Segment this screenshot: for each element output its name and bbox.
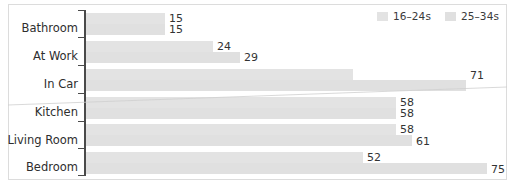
category-label-bedroom: Bedroom — [6, 161, 78, 173]
legend-swatch-icon — [377, 12, 388, 21]
axis-tick — [78, 10, 85, 11]
axis-tick — [78, 65, 85, 66]
bar-bathroom-25-34s[interactable] — [84, 24, 165, 35]
category-label-bathroom: Bathroom — [6, 22, 78, 34]
bar-at-work-16-24s[interactable] — [84, 41, 213, 52]
bar-value-living-room-16-24s: 58 — [400, 124, 414, 135]
axis-tick — [78, 175, 85, 176]
axis-tick — [78, 148, 85, 149]
bar-kitchen-16-24s[interactable] — [84, 97, 396, 108]
bar-living-room-16-24s[interactable] — [84, 124, 396, 135]
axis-tick — [78, 93, 85, 94]
category-label-at-work: At Work — [6, 50, 78, 62]
legend-item-25-34s[interactable]: 25–34s — [445, 11, 499, 22]
bar-value-living-room-25-34s: 61 — [416, 136, 430, 147]
bar-at-work-25-34s[interactable] — [84, 52, 240, 63]
axis-tick — [78, 121, 85, 122]
bar-in-car-16-24s[interactable] — [84, 69, 353, 80]
bar-kitchen-25-34s[interactable] — [84, 108, 396, 119]
chart-legend: 16–24s 25–34s — [377, 11, 499, 22]
legend-label: 16–24s — [393, 11, 431, 22]
legend-label: 25–34s — [461, 11, 499, 22]
category-label-in-car: In Car — [6, 78, 78, 90]
category-axis-labels: Bathroom At Work In Car Kitchen Living R… — [0, 10, 78, 176]
bar-value-bathroom-25-34s: 15 — [169, 24, 183, 35]
bar-in-car-25-34s[interactable] — [84, 80, 466, 91]
bar-chart: 16–24s 25–34s Bathroom At Work In Car Ki… — [0, 0, 515, 188]
bar-value-kitchen-25-34s: 58 — [400, 108, 414, 119]
axis-tick — [78, 37, 85, 38]
bar-value-at-work-25-34s: 29 — [244, 52, 258, 63]
legend-swatch-icon — [445, 12, 456, 21]
bar-value-in-car-25-34s: 71 — [470, 70, 484, 81]
bar-bedroom-25-34s[interactable] — [84, 163, 487, 174]
category-label-kitchen: Kitchen — [6, 106, 78, 118]
bar-value-bedroom-25-34s: 75 — [491, 164, 505, 175]
bar-value-bedroom-16-24s: 52 — [367, 152, 381, 163]
category-label-living-room: Living Room — [6, 134, 78, 146]
plot-area: 15 15 24 29 50 71 58 58 58 61 — [84, 10, 504, 176]
bar-bathroom-16-24s[interactable] — [84, 13, 165, 24]
legend-item-16-24s[interactable]: 16–24s — [377, 11, 431, 22]
bar-bedroom-16-24s[interactable] — [84, 152, 363, 163]
bar-living-room-25-34s[interactable] — [84, 135, 412, 146]
bar-value-at-work-16-24s: 24 — [217, 41, 231, 52]
